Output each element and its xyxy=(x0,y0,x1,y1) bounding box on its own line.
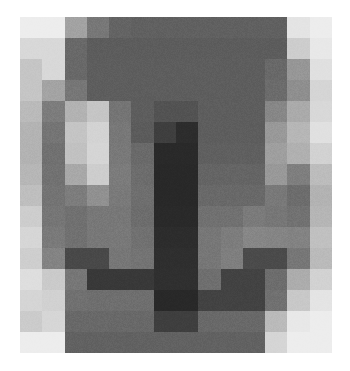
pixelated-portrait-image xyxy=(20,17,332,353)
image-viewer xyxy=(0,0,350,371)
